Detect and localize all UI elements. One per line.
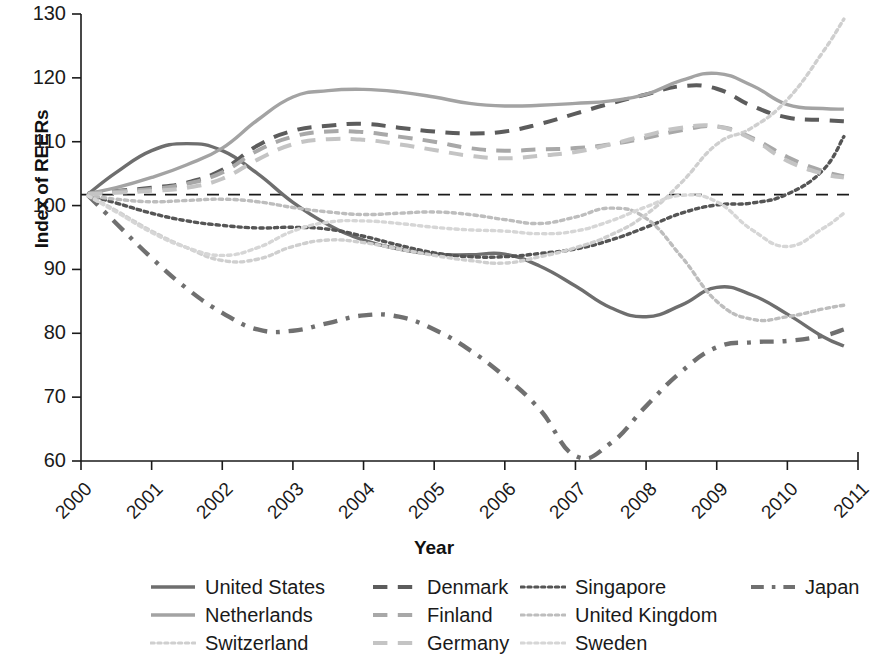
legend-swatch-icon — [372, 608, 418, 622]
legend-swatch-icon — [150, 580, 196, 594]
x-axis-tick-label: 2000 — [41, 478, 96, 533]
legend-item-united-kingdom[interactable]: United Kingdom — [520, 605, 717, 625]
legend-swatch-icon — [520, 580, 566, 594]
legend-label: Switzerland — [205, 633, 308, 653]
series-line-netherlands — [88, 73, 844, 193]
series-line-united-states — [88, 144, 844, 346]
legend-item-netherlands[interactable]: Netherlands — [150, 605, 313, 625]
legend-row: United StatesDenmarkSingaporeJapan — [150, 573, 850, 601]
chart-legend: United StatesDenmarkSingaporeJapanNether… — [150, 573, 850, 657]
legend-label: Japan — [805, 577, 860, 597]
x-axis-tick-labels: 2000200120022003200420052006200720082009… — [0, 466, 868, 586]
x-axis-tick-label: 2003 — [253, 478, 308, 533]
legend-row: SwitzerlandGermanySweden — [150, 629, 850, 657]
legend-item-singapore[interactable]: Singapore — [520, 577, 666, 597]
series-line-singapore — [88, 137, 844, 258]
legend-swatch-icon — [150, 636, 196, 650]
legend-label: Germany — [427, 633, 509, 653]
x-axis-tick-label: 2010 — [748, 478, 803, 533]
legend-swatch-icon — [520, 636, 566, 650]
x-axis-tick-label: 2002 — [183, 478, 238, 533]
legend-label: United Kingdom — [575, 605, 717, 625]
legend-row: NetherlandsFinlandUnited Kingdom — [150, 601, 850, 629]
x-axis-tick-label: 2004 — [324, 478, 379, 533]
x-axis-title: Year — [0, 537, 868, 559]
legend-item-united-states[interactable]: United States — [150, 577, 325, 597]
legend-swatch-icon — [372, 636, 418, 650]
legend-item-denmark[interactable]: Denmark — [372, 577, 508, 597]
x-axis-tick-label: 2011 — [818, 478, 873, 533]
legend-item-sweden[interactable]: Sweden — [520, 633, 647, 653]
x-axis-tick-label: 2009 — [677, 478, 732, 533]
legend-item-germany[interactable]: Germany — [372, 633, 509, 653]
legend-swatch-icon — [520, 608, 566, 622]
legend-item-switzerland[interactable]: Switzerland — [150, 633, 308, 653]
legend-label: Denmark — [427, 577, 508, 597]
series-line-japan — [88, 195, 844, 458]
legend-label: Finland — [427, 605, 493, 625]
x-axis-tick-label: 2006 — [465, 478, 520, 533]
legend-label: Sweden — [575, 633, 647, 653]
legend-swatch-icon — [372, 580, 418, 594]
legend-item-finland[interactable]: Finland — [372, 605, 493, 625]
x-axis-tick-label: 2001 — [112, 478, 167, 533]
series-line-switzerland — [88, 19, 844, 263]
legend-swatch-icon — [150, 608, 196, 622]
legend-label: United States — [205, 577, 325, 597]
legend-item-japan[interactable]: Japan — [750, 577, 860, 597]
x-axis-tick-label: 2008 — [606, 478, 661, 533]
x-axis-tick-label: 2005 — [395, 478, 450, 533]
x-axis-tick-label: 2007 — [536, 478, 591, 533]
legend-label: Singapore — [575, 577, 666, 597]
legend-swatch-icon — [750, 580, 796, 594]
legend-label: Netherlands — [205, 605, 313, 625]
plot-area — [0, 0, 868, 480]
